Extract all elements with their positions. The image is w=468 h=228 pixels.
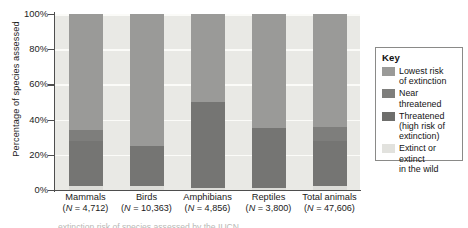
legend-label-line: (high risk of xyxy=(399,121,445,131)
legend-item: Threatened(high risk ofextinction) xyxy=(381,111,458,142)
y-axis-tick-mark xyxy=(48,14,54,15)
legend-label-line: Extinct or xyxy=(399,143,438,153)
bar-total-animals xyxy=(313,14,347,190)
y-axis-tick-mark xyxy=(48,84,54,85)
legend-swatch xyxy=(382,89,395,98)
legend-item: Nearthreatened xyxy=(381,88,458,108)
legend-label-line: extinction) xyxy=(399,131,445,141)
bar-segment xyxy=(313,14,347,127)
category-count: (N = 47,606) xyxy=(286,203,374,214)
legend-item: Lowest riskof extinction xyxy=(381,66,458,86)
bar-segment xyxy=(313,127,347,141)
legend-swatch xyxy=(382,144,395,153)
bar-segment xyxy=(313,141,347,187)
bar-segment xyxy=(191,102,225,188)
legend-label-line: in the wild xyxy=(399,164,438,174)
y-axis-tick-label: 40% xyxy=(4,114,48,125)
legend-label-line: Threatened xyxy=(399,111,445,121)
bar-segment xyxy=(313,186,347,190)
bar-segment xyxy=(252,128,286,188)
bar-segment xyxy=(252,14,286,128)
plot-area xyxy=(55,14,360,190)
legend-title: Key xyxy=(382,52,458,63)
legend-items: Lowest riskof extinctionNearthreatenedTh… xyxy=(381,66,458,174)
legend-label: Nearthreatened xyxy=(399,88,441,108)
legend-key-box: Key Lowest riskof extinctionNearthreaten… xyxy=(375,47,463,161)
legend-label-line: of extinction xyxy=(399,76,446,86)
bar-reptiles xyxy=(252,14,286,190)
y-axis-tick-label: 100% xyxy=(4,8,48,19)
figure-stacked-bar-chart: Percentage of species assessed 0%20%40%6… xyxy=(0,0,468,228)
legend-label: Extinct orextinctin the wild xyxy=(399,143,438,174)
legend-label-line: extinct xyxy=(399,154,438,164)
legend-item: Extinct orextinctin the wild xyxy=(381,143,458,174)
bar-segment xyxy=(69,141,103,187)
y-axis-tick-label: 20% xyxy=(4,149,48,160)
y-axis-tick-mark xyxy=(48,155,54,156)
bar-segment xyxy=(69,14,103,130)
legend-label-line: threatened xyxy=(399,99,441,109)
bar-segment xyxy=(130,146,164,186)
bar-segment xyxy=(252,188,286,190)
bar-segment xyxy=(69,130,103,141)
y-axis-tick-mark xyxy=(48,49,54,50)
bar-amphibians xyxy=(191,14,225,190)
bar-segment xyxy=(130,14,164,146)
legend-label: Lowest riskof extinction xyxy=(399,66,446,86)
y-axis-tick-mark xyxy=(48,120,54,121)
bar-segment xyxy=(191,14,225,102)
bar-segment xyxy=(191,188,225,190)
legend-swatch xyxy=(382,112,395,121)
y-axis-tick-label: 80% xyxy=(4,43,48,54)
x-axis-label-total-animals: Total animals(N = 47,606) xyxy=(286,192,374,215)
bar-mammals xyxy=(69,14,103,190)
legend-label-line: Lowest risk xyxy=(399,66,446,76)
category-name: Total animals xyxy=(286,192,374,203)
legend-swatch xyxy=(382,67,395,76)
legend-label-line: Near xyxy=(399,88,441,98)
bar-segment xyxy=(130,186,164,190)
y-axis-tick-label: 60% xyxy=(4,78,48,89)
bar-segment xyxy=(69,186,103,190)
figure-caption-cutoff: extinction risk of species assessed by t… xyxy=(58,222,368,228)
legend-label: Threatened(high risk ofextinction) xyxy=(399,111,445,142)
bar-birds xyxy=(130,14,164,190)
